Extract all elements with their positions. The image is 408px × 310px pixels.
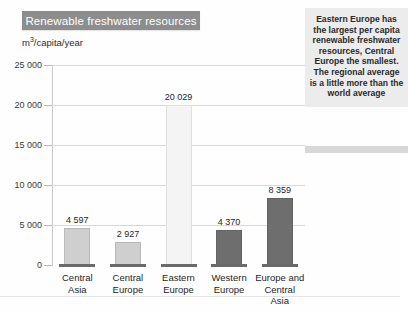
bar-column[interactable]: 2 927	[115, 65, 141, 265]
x-axis-category-label: CentralEurope	[103, 272, 154, 295]
plot-area: 4 5972 92720 0294 3708 359	[52, 65, 305, 265]
y-axis-tick-label: 20 000	[0, 100, 42, 110]
bar-baseline	[211, 264, 247, 267]
y-axis-tick-label: 0	[0, 260, 42, 270]
y-axis-tick	[44, 65, 52, 66]
x-axis-label-line: Europe	[103, 284, 154, 296]
x-axis-label-line: Europe and	[254, 272, 305, 284]
bar-value-label: 4 370	[218, 217, 241, 227]
bar[interactable]: 2 927	[115, 242, 141, 265]
side-note-footer-band	[305, 146, 408, 153]
x-axis-category-label: Europe andCentral Asia	[254, 272, 305, 307]
bar-column[interactable]: 20 029	[166, 65, 192, 265]
y-axis-tick	[44, 145, 52, 146]
bar-value-label: 4 597	[66, 215, 89, 225]
bar-column[interactable]: 4 370	[216, 65, 242, 265]
y-axis-tick	[44, 225, 52, 226]
y-axis-tick	[44, 265, 52, 266]
bar-baseline	[59, 264, 95, 267]
bar[interactable]: 8 359	[267, 198, 293, 265]
y-axis-tick-label: 15 000	[0, 140, 42, 150]
y-axis-tick	[44, 185, 52, 186]
y-axis-tick-label: 25 000	[0, 60, 42, 70]
bar-column[interactable]: 4 597	[64, 65, 90, 265]
bar-baseline	[110, 264, 146, 267]
x-axis-label-line: Eastern	[153, 272, 204, 284]
bar-column[interactable]: 8 359	[267, 65, 293, 265]
bar-baseline	[262, 264, 298, 267]
bar[interactable]: 20 029	[166, 105, 192, 265]
bar[interactable]: 4 597	[64, 228, 90, 265]
x-axis-label-line: Central	[103, 272, 154, 284]
side-note-box: Eastern Europe has the largest per capit…	[305, 8, 408, 107]
x-axis-category-label: WesternEurope	[204, 272, 255, 295]
x-axis-label-line: Central	[52, 272, 103, 284]
bar-value-label: 20 029	[165, 92, 193, 102]
side-note-text: Eastern Europe has the largest per capit…	[309, 14, 404, 99]
y-axis-tick-label: 5 000	[0, 220, 42, 230]
y-axis-tick	[44, 105, 52, 106]
bar-value-label: 8 359	[268, 185, 291, 195]
x-axis-category-label: EasternEurope	[153, 272, 204, 295]
bar-value-label: 2 927	[117, 229, 140, 239]
x-axis-label-line: Europe	[204, 284, 255, 296]
bar-baseline	[161, 264, 197, 267]
x-axis-category-label: CentralAsia	[52, 272, 103, 295]
y-axis-tick-label: 10 000	[0, 180, 42, 190]
x-axis-label-line: Europe	[153, 284, 204, 296]
x-axis-label-line: Central Asia	[254, 284, 305, 307]
x-axis-label-line: Asia	[52, 284, 103, 296]
bar[interactable]: 4 370	[216, 230, 242, 265]
x-axis-label-line: Western	[204, 272, 255, 284]
